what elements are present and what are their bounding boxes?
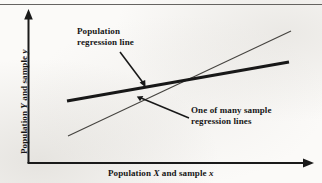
y-axis-label-variable-Y: Y (19, 103, 29, 109)
x-axis-label-mid: and sample (159, 168, 208, 178)
x-axis-label: Population X and sample x (108, 168, 214, 179)
sample-regression-label-line2: regression lines (191, 116, 272, 127)
x-axis-arrowhead (303, 158, 314, 167)
population-regression-label-line2: regression line (77, 37, 134, 48)
figure-canvas: Population regression line One of many s… (0, 0, 322, 183)
y-axis-label: Population Y and sample y (19, 24, 30, 154)
sample-regression-label: One of many sample regression lines (191, 105, 272, 126)
y-axis-label-pre: Population (19, 109, 29, 154)
x-axis-label-variable-x: x (209, 168, 214, 178)
x-axis-label-pre: Population (108, 168, 153, 178)
population-regression-line (67, 62, 289, 101)
y-axis-label-variable-y: y (19, 49, 29, 53)
population-label-leader-line (120, 52, 144, 84)
regression-diagram (0, 0, 322, 183)
population-regression-label-line1: Population (77, 26, 134, 37)
y-axis-arrowhead (24, 9, 33, 20)
sample-label-leader-line (141, 98, 189, 118)
y-axis-label-mid: and sample (19, 54, 29, 103)
sample-regression-label-line1: One of many sample (191, 105, 272, 116)
population-regression-label: Population regression line (77, 26, 134, 47)
